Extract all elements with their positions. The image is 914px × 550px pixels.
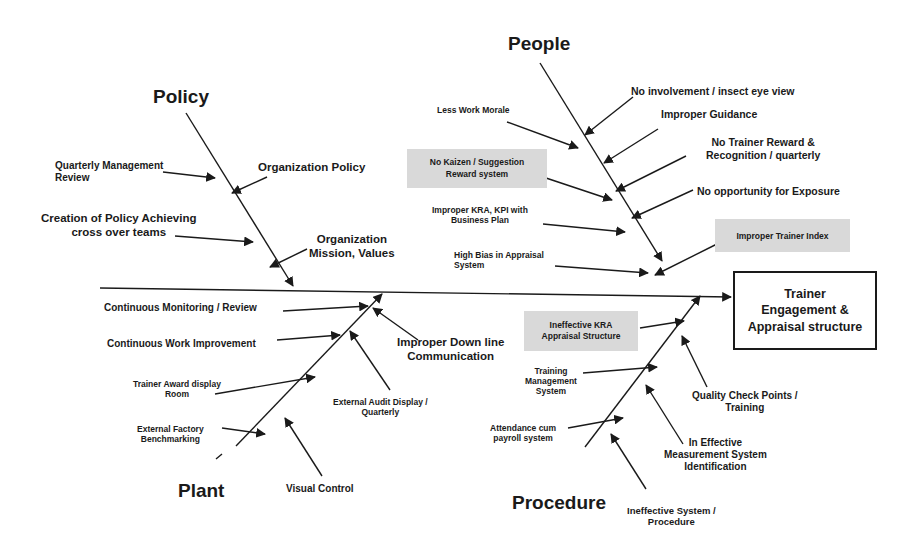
cause-external-factory-benchmarking: External FactoryBenchmarking bbox=[137, 424, 204, 444]
cause-continuous-work-improvement: Continuous Work Improvement bbox=[107, 338, 256, 350]
cause-organization-policy: Organization Policy bbox=[258, 161, 365, 175]
cause-ineffective-system-procedure: Ineffective System /Procedure bbox=[627, 505, 716, 528]
cause-no-involvement: No involvement / insect eye view bbox=[631, 85, 794, 98]
cause-measurement-system: In EffectiveMeasurement SystemIdentifica… bbox=[664, 437, 767, 473]
cause-training-management-system: TrainingManagementSystem bbox=[525, 366, 577, 397]
plant-bone bbox=[236, 294, 382, 446]
cause-trainer-award-room: Trainer Award displayRoom bbox=[133, 379, 221, 399]
effect-line-1: Trainer bbox=[748, 286, 863, 302]
policy-bone bbox=[186, 113, 293, 286]
effect-line-2: Engagement & bbox=[748, 302, 863, 318]
cause-quality-check-points: Quality Check Points /Training bbox=[692, 390, 798, 414]
cause-high-bias-appraisal: High Bias in AppraisalSystem bbox=[454, 250, 544, 270]
cause-improper-down-line: Improper Down lineCommunication bbox=[397, 336, 504, 364]
effect-line-3: Appraisal structure bbox=[748, 319, 863, 335]
effect-box: Trainer Engagement & Appraisal structure bbox=[733, 271, 877, 350]
spine-line bbox=[100, 288, 731, 297]
category-plant: Plant bbox=[178, 480, 224, 503]
cause-creation-of-policy: Creation of Policy Achievingcross over t… bbox=[41, 212, 197, 240]
cause-improper-guidance: Improper Guidance bbox=[661, 108, 757, 121]
cause-external-audit-display: External Audit Display /Quarterly bbox=[333, 397, 428, 417]
cause-no-opportunity-exposure: No opportunity for Exposure bbox=[697, 185, 840, 198]
category-people: People bbox=[508, 33, 570, 56]
cause-continuous-monitoring: Continuous Monitoring / Review bbox=[104, 302, 257, 314]
cause-no-trainer-reward: No Trainer Reward &Recognition / quarter… bbox=[706, 136, 820, 161]
category-policy: Policy bbox=[153, 86, 209, 109]
cause-attendance-payroll: Attendance cumpayroll system bbox=[490, 423, 556, 443]
cause-less-work-morale: Less Work Morale bbox=[437, 105, 510, 115]
cause-improper-trainer-index-box: Improper Trainer Index bbox=[715, 219, 850, 252]
cause-no-kaizen-box: No Kaizen / SuggestionReward system bbox=[407, 149, 547, 188]
cause-improper-kra-kpi: Improper KRA, KPI withBusiness Plan bbox=[432, 205, 528, 225]
category-procedure: Procedure bbox=[512, 492, 606, 515]
cause-organization-mission: OrganizationMission, Values bbox=[309, 233, 395, 261]
cause-ineffective-kra-box: Ineffective KRAAppraisal Structure bbox=[524, 311, 638, 351]
cause-visual-control: Visual Control bbox=[286, 483, 354, 495]
cause-quarterly-management-review: Quarterly ManagementReview bbox=[55, 160, 163, 184]
